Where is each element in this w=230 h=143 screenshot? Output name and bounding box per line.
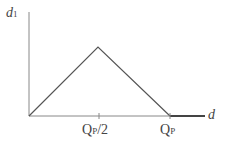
tick-label-full-sub: P [170,126,175,136]
diagram-canvas [0,0,230,143]
y-axis-label-subscript: 1 [13,9,18,19]
triangle-curve [29,47,170,116]
y-axis-label-main: d [6,5,13,20]
tick-label-half: QP/2 [82,123,108,137]
x-axis-label: d [208,108,215,122]
tick-label-half-main: Q [82,122,92,137]
tick-label-half-suffix: /2 [97,122,108,137]
y-axis-label: d1 [6,6,18,20]
tick-label-full: QP [160,123,175,137]
tick-label-full-main: Q [160,122,170,137]
